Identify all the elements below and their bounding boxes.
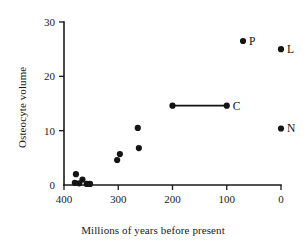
- range-bar-label: C: [233, 100, 241, 112]
- y-tick-label: 20: [44, 70, 56, 82]
- data-point-dot: [136, 145, 142, 151]
- y-tick-label: 30: [44, 16, 56, 28]
- data-point-label: N: [287, 122, 296, 134]
- data-point-dot: [240, 38, 246, 44]
- x-tick-label: 200: [164, 193, 181, 205]
- data-point-dot: [87, 181, 93, 187]
- data-point-dot: [278, 125, 284, 131]
- x-tick-label: 400: [56, 193, 73, 205]
- data-point-label: P: [249, 35, 255, 47]
- data-point-label: L: [287, 43, 294, 55]
- range-bar-endpoint-dot: [169, 103, 175, 109]
- data-points-group: [72, 38, 284, 187]
- data-point-dot: [114, 157, 120, 163]
- x-tick-label: 0: [278, 193, 284, 205]
- x-tick-label: 100: [219, 193, 236, 205]
- range-bar-endpoint-dot: [224, 103, 230, 109]
- point-labels-group: CPLN: [233, 35, 296, 134]
- y-tick-label: 10: [44, 125, 56, 137]
- y-axis-title: Osteocyte volume: [16, 67, 28, 148]
- data-point-dot: [73, 171, 79, 177]
- chart-canvas: 01020304003002001000 CPLN: [0, 0, 306, 248]
- data-point-dot: [135, 125, 141, 131]
- x-tick-label: 300: [110, 193, 127, 205]
- scatter-plot-figure: 01020304003002001000 CPLN Millions of ye…: [0, 0, 306, 248]
- data-point-dot: [278, 46, 284, 52]
- data-point-dot: [117, 151, 123, 157]
- plot-surface: 01020304003002001000 CPLN: [0, 0, 306, 248]
- y-tick-label: 0: [50, 179, 56, 191]
- x-axis-title: Millions of years before present: [0, 224, 306, 236]
